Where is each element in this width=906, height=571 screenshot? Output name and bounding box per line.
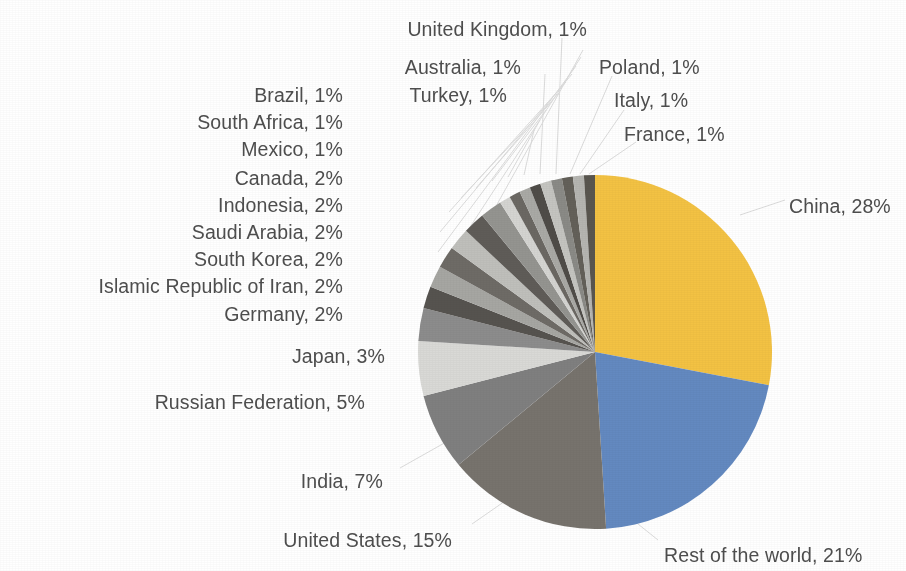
leader-line-china [740, 200, 785, 215]
leader-line-south-africa [492, 110, 546, 181]
slice-label-russian-federation: Russian Federation, 5% [0, 392, 365, 413]
slice-label-united-kingdom: United Kingdom, 1% [0, 19, 587, 40]
slice-label-canada: Canada, 2% [0, 168, 343, 189]
slice-label-mexico: Mexico, 1% [0, 139, 343, 160]
leader-line-canada [461, 92, 560, 198]
slice-label-islamic-republic-of-iran: Islamic Republic of Iran, 2% [0, 276, 343, 297]
slice-label-italy: Italy, 1% [614, 90, 688, 111]
slice-label-china: China, 28% [789, 196, 891, 217]
leader-line-france [589, 142, 636, 174]
leader-line-australia [540, 74, 545, 174]
pie-chart-figure: China, 28%Rest of the world, 21%United S… [0, 0, 906, 571]
slice-label-rest-of-the-world: Rest of the world, 21% [664, 545, 862, 566]
slice-label-south-africa: South Africa, 1% [0, 112, 343, 133]
pie-slices-group: China, 28%Rest of the world, 21%United S… [418, 175, 772, 529]
slice-label-india: India, 7% [0, 471, 383, 492]
slice-label-australia: Australia, 1% [0, 57, 521, 78]
leader-line-united-kingdom [556, 38, 562, 174]
slice-label-south-korea: South Korea, 2% [0, 249, 343, 270]
slice-label-poland: Poland, 1% [599, 57, 700, 78]
slice-label-germany: Germany, 2% [0, 304, 343, 325]
slice-label-turkey: Turkey, 1% [0, 85, 507, 106]
pie-slice-china[interactable]: China, 28% [595, 175, 772, 385]
slice-label-france: France, 1% [624, 124, 725, 145]
leader-line-italy [580, 110, 624, 174]
slice-label-japan: Japan, 3% [0, 346, 385, 367]
slice-label-saudi-arabia: Saudi Arabia, 2% [0, 222, 343, 243]
leader-line-poland [570, 76, 612, 174]
slice-label-united-states: United States, 15% [0, 530, 452, 551]
slice-label-indonesia: Indonesia, 2% [0, 195, 343, 216]
